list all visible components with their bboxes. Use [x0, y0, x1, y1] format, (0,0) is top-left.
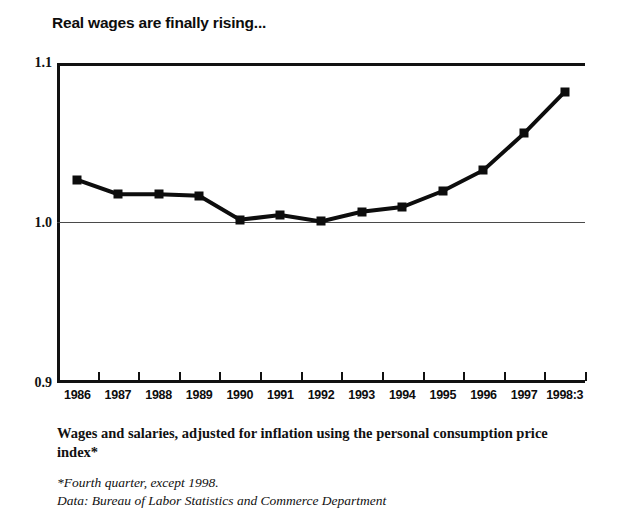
- x-tick-label: 1987: [105, 388, 132, 402]
- data-marker: [560, 87, 569, 96]
- data-marker: [520, 129, 529, 138]
- page-title: Real wages are finally rising...: [52, 14, 266, 32]
- x-axis-labels: 1986198719881989199019911992199319941995…: [57, 388, 585, 408]
- chart-caption: Wages and salaries, adjusted for inflati…: [57, 424, 577, 462]
- x-axis-tick: [219, 372, 221, 381]
- x-tick-label: 1986: [64, 388, 91, 402]
- x-axis-tick: [179, 372, 181, 381]
- data-marker: [276, 211, 285, 220]
- x-tick-label: 1993: [348, 388, 375, 402]
- data-marker: [73, 175, 82, 184]
- y-tick-label-top: 1.1: [35, 55, 53, 71]
- data-marker: [398, 203, 407, 212]
- x-tick-label: 1998:3: [546, 388, 583, 402]
- data-marker: [154, 190, 163, 199]
- x-axis-tick: [57, 372, 59, 381]
- x-tick-label: 1994: [389, 388, 416, 402]
- x-axis-tick: [504, 372, 506, 381]
- x-axis-tick: [544, 372, 546, 381]
- footnote-text: *Fourth quarter, except 1998.: [57, 474, 597, 492]
- x-tick-label: 1992: [308, 388, 335, 402]
- x-tick-label: 1996: [470, 388, 497, 402]
- y-tick-label-bottom: 0.9: [35, 375, 53, 391]
- x-axis-tick: [301, 372, 303, 381]
- data-marker: [195, 191, 204, 200]
- x-axis-tick: [260, 372, 262, 381]
- x-axis-tick: [382, 372, 384, 381]
- data-marker: [357, 207, 366, 216]
- x-axis-tick: [585, 372, 587, 381]
- y-axis-labels: 1.1 1.0 0.9: [0, 0, 52, 518]
- plot-area: [57, 63, 585, 383]
- y-tick-label-mid: 1.0: [35, 215, 53, 231]
- data-marker: [438, 187, 447, 196]
- data-marker: [317, 217, 326, 226]
- x-axis-tick: [138, 372, 140, 381]
- x-axis-tick: [341, 372, 343, 381]
- x-tick-label: 1991: [267, 388, 294, 402]
- x-tick-label: 1997: [511, 388, 538, 402]
- x-tick-label: 1995: [430, 388, 457, 402]
- data-marker: [479, 166, 488, 175]
- x-tick-label: 1988: [145, 388, 172, 402]
- data-marker: [235, 215, 244, 224]
- x-axis-tick: [98, 372, 100, 381]
- x-tick-label: 1989: [186, 388, 213, 402]
- data-marker: [113, 190, 122, 199]
- source-text: Data: Bureau of Labor Statistics and Com…: [57, 492, 597, 510]
- x-tick-label: 1990: [226, 388, 253, 402]
- chart-notes: *Fourth quarter, except 1998. Data: Bure…: [57, 474, 597, 510]
- x-axis-tick: [463, 372, 465, 381]
- x-axis-tick: [423, 372, 425, 381]
